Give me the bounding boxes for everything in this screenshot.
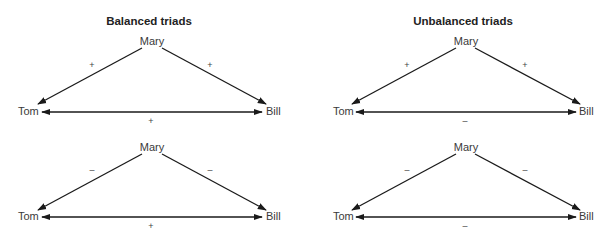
panel-title-unbalanced: Unbalanced triads <box>413 16 513 28</box>
sign-tom-bill: – <box>462 117 467 126</box>
sign-mary-tom: – <box>89 166 94 175</box>
edge-mary-bill <box>162 154 266 210</box>
sign-tom-bill: + <box>148 117 153 126</box>
sign-mary-tom: + <box>404 61 409 70</box>
node-tom: Tom <box>333 106 354 117</box>
node-tom: Tom <box>18 106 39 117</box>
sign-mary-tom: + <box>89 61 94 70</box>
node-mary: Mary <box>140 142 164 153</box>
sign-tom-bill: + <box>148 222 153 231</box>
sign-mary-bill: + <box>522 61 527 70</box>
node-tom: Tom <box>333 211 354 222</box>
node-bill: Bill <box>579 211 594 222</box>
node-bill: Bill <box>266 106 281 117</box>
edge-mary-bill <box>475 154 580 210</box>
panel-title-balanced: Balanced triads <box>106 16 192 28</box>
sign-tom-bill: – <box>462 222 467 231</box>
edge-mary-tom <box>38 48 142 104</box>
edge-mary-tom <box>352 48 456 104</box>
node-mary: Mary <box>454 36 478 47</box>
sign-mary-tom: – <box>404 166 409 175</box>
edge-mary-bill <box>162 48 266 104</box>
node-mary: Mary <box>140 36 164 47</box>
triads-diagram-lines <box>0 0 607 234</box>
node-bill: Bill <box>266 211 281 222</box>
node-tom: Tom <box>18 211 39 222</box>
edge-mary-tom <box>38 154 142 210</box>
edge-mary-bill <box>475 48 580 104</box>
sign-mary-bill: – <box>207 166 212 175</box>
sign-mary-bill: – <box>522 166 527 175</box>
edge-mary-tom <box>352 154 456 210</box>
node-bill: Bill <box>579 106 594 117</box>
node-mary: Mary <box>454 142 478 153</box>
sign-mary-bill: + <box>207 61 212 70</box>
